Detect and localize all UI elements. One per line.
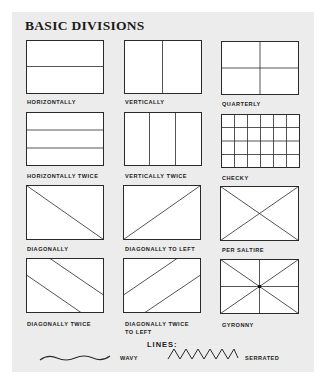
label-diagonally-twice-to-left: DIAGONALLY TWICE TO LEFT xyxy=(125,320,189,336)
division-vertically xyxy=(124,40,202,94)
label-quarterly: QUARTERLY xyxy=(222,100,261,108)
division-diagonally xyxy=(26,185,104,240)
diagonally-figure xyxy=(26,185,104,240)
division-per-saltire xyxy=(220,186,299,241)
label-diagonally: DIAGONALLY xyxy=(27,245,68,253)
label-vertically: VERTICALLY xyxy=(125,98,165,106)
division-quarterly xyxy=(221,41,299,95)
serrated-line-sample xyxy=(167,346,239,362)
label-horizontally: HORIZONTALLY xyxy=(27,98,76,106)
label-vertically-twice: VERTICALLY TWICE xyxy=(125,172,187,180)
quarterly-figure xyxy=(221,41,299,95)
label-line-1: DIAGONALLY TWICE xyxy=(125,320,189,328)
diagonally-twice-figure xyxy=(26,258,104,313)
label-line-2: TO LEFT xyxy=(125,328,189,336)
per-saltire-figure xyxy=(220,186,299,241)
division-horizontally xyxy=(26,40,104,94)
division-diagonally-to-left xyxy=(123,185,201,240)
label-diagonally-twice: DIAGONALLY TWICE xyxy=(27,320,91,328)
label-wavy: WAVY xyxy=(120,355,138,361)
division-gyronny xyxy=(220,259,299,314)
label-per-saltire: PER SALTIRE xyxy=(222,246,264,254)
label-serrated: SERRATED xyxy=(245,355,279,361)
label-checky: CHECKY xyxy=(222,174,249,182)
wavy-line-sample xyxy=(39,352,111,364)
division-checky xyxy=(221,114,300,168)
label-gyronny: GYRONNY xyxy=(222,321,254,329)
horizontally-twice-figure xyxy=(26,112,104,166)
label-diagonally-to-left: DIAGONALLY TO LEFT xyxy=(125,245,195,253)
label-horizontally-twice: HORIZONTALLY TWICE xyxy=(27,172,98,180)
division-horizontally-twice xyxy=(26,112,104,166)
checky-figure xyxy=(221,114,300,168)
diagonally-twice-to-left-figure xyxy=(123,258,201,313)
diagonally-to-left-figure xyxy=(123,185,201,240)
serrated-line-icon xyxy=(167,346,239,362)
division-vertically-twice xyxy=(124,112,202,166)
gyronny-figure xyxy=(220,259,299,314)
diagram-title: BASIC DIVISIONS xyxy=(25,18,145,34)
vertically-twice-figure xyxy=(124,112,202,166)
vertically-figure xyxy=(124,40,202,94)
division-diagonally-twice xyxy=(26,258,104,313)
division-diagonally-twice-to-left xyxy=(123,258,201,313)
wavy-line-icon xyxy=(39,352,111,364)
horizontally-figure xyxy=(26,40,104,94)
